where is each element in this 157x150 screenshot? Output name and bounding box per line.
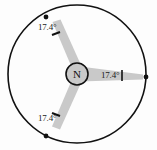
nucleus-sector-diagram: N 17.4° 17.4° 17.4°: [0, 0, 157, 150]
angle-label-right: 17.4°: [101, 71, 119, 80]
marker-lower-left-icon: [44, 134, 49, 139]
angle-label-top: 17.4°: [38, 23, 56, 32]
marker-right-icon: [144, 75, 149, 80]
sector-upper-left: [53, 20, 84, 70]
nucleus-label: N: [73, 68, 81, 80]
marker-upper-left-icon: [44, 15, 49, 20]
sector-lower-left: [52, 79, 83, 130]
angle-label-bottom: 17.4°: [38, 114, 56, 123]
diagram-canvas: N: [0, 0, 157, 150]
